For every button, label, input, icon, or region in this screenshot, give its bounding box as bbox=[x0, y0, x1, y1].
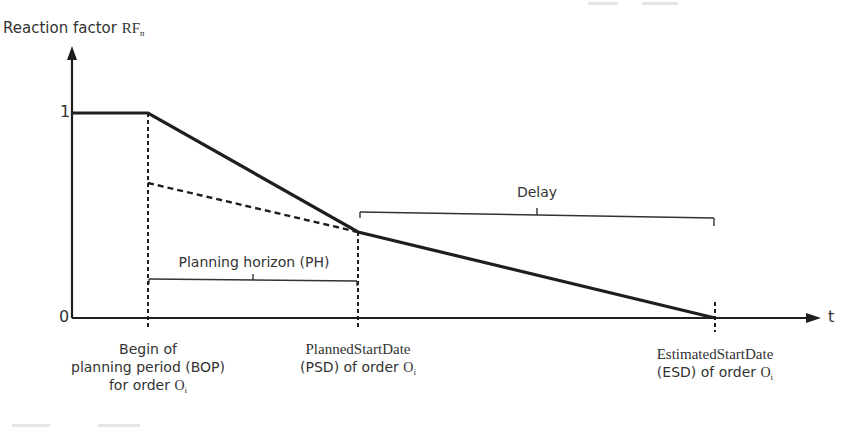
y-tick-zero: 0 bbox=[59, 308, 69, 325]
psd-label: PlannedStartDate (PSD) of order Oi bbox=[300, 340, 416, 381]
x-axis-label: t bbox=[828, 308, 834, 325]
bop-label: Begin of planning period (BOP) for order… bbox=[71, 340, 225, 399]
delay-bracket bbox=[360, 208, 714, 226]
dashed-reference-line bbox=[148, 183, 358, 232]
y-tick-one: 1 bbox=[60, 103, 70, 120]
x-axis-arrow-icon bbox=[806, 313, 821, 323]
delay-label: Delay bbox=[517, 184, 557, 201]
reaction-factor-curve bbox=[72, 113, 715, 318]
planning-horizon-bracket bbox=[149, 274, 357, 286]
planning-horizon-label: Planning horizon (PH) bbox=[179, 254, 330, 271]
y-axis-symbol: RF bbox=[122, 20, 140, 36]
y-axis-label: Reaction factor RFn bbox=[3, 20, 145, 42]
esd-label: EstimatedStartDate (ESD) of order Oi bbox=[657, 345, 774, 386]
y-axis-arrow-icon bbox=[67, 46, 77, 60]
